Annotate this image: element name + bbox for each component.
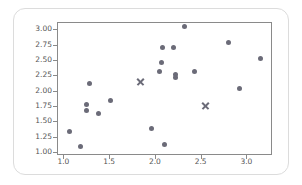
- scatter-x-marker: [136, 78, 145, 87]
- y-axis-tick-label: 2.00: [35, 87, 52, 95]
- scatter-x-marker: [201, 101, 210, 110]
- y-axis-tick-mark: [53, 45, 57, 46]
- scatter-point: [182, 24, 187, 29]
- y-axis-tick-label: 2.50: [35, 56, 52, 64]
- scatter-point: [160, 45, 165, 50]
- y-axis-tick-mark: [53, 91, 57, 92]
- y-axis-tick-label: 2.25: [35, 71, 52, 79]
- x-axis-tick-mark: [63, 155, 64, 159]
- x-axis-tick-mark: [155, 155, 156, 159]
- scatter-point: [149, 126, 154, 131]
- y-axis-tick-label: 1.50: [35, 117, 52, 125]
- x-axis-tick-label: 2.0: [149, 158, 161, 166]
- y-axis-tick-label: 1.00: [35, 148, 52, 156]
- y-axis-tick-label: 3.00: [35, 25, 52, 33]
- y-axis-tick-mark: [53, 137, 57, 138]
- y-axis-tick-mark: [53, 29, 57, 30]
- scatter-point: [84, 102, 89, 107]
- y-axis-tick-label: 1.75: [35, 102, 52, 110]
- x-axis-tick-label: 1.0: [57, 158, 69, 166]
- x-axis-tick-label: 1.5: [103, 158, 115, 166]
- scatter-point: [96, 111, 101, 116]
- y-axis-tick-label: 2.75: [35, 41, 52, 49]
- x-axis-tick-mark: [109, 155, 110, 159]
- y-axis-tick-mark: [53, 152, 57, 153]
- scatter-point: [157, 69, 162, 74]
- scatter-plot-figure: 1.001.251.501.752.002.252.502.753.001.01…: [0, 0, 302, 185]
- y-axis-tick-mark: [53, 75, 57, 76]
- y-axis-tick-mark: [53, 121, 57, 122]
- scatter-point: [237, 86, 242, 91]
- x-axis-tick-label: 2.5: [195, 158, 207, 166]
- x-axis-tick-mark: [201, 155, 202, 159]
- scatter-point: [162, 142, 167, 147]
- scatter-point: [226, 40, 231, 45]
- scatter-point: [258, 56, 263, 61]
- y-axis-tick-mark: [53, 106, 57, 107]
- y-axis-tick-label: 1.25: [35, 133, 52, 141]
- y-axis-tick-mark: [53, 60, 57, 61]
- x-axis-tick-mark: [246, 155, 247, 159]
- scatter-point: [159, 60, 164, 65]
- x-axis-tick-label: 3.0: [240, 158, 252, 166]
- scatter-point: [84, 108, 89, 113]
- scatter-point: [192, 69, 197, 74]
- scatter-point: [171, 45, 176, 50]
